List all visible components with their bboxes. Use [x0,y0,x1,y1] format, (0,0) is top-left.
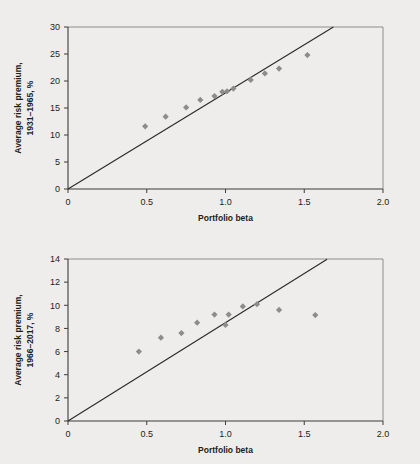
y-axis-tick-label: 20 [50,76,60,86]
security-market-line [68,27,333,189]
plot-axes [68,27,383,189]
data-point-marker [136,348,142,354]
x-axis-tick-label: 1.5 [298,197,311,207]
data-point-marker [158,335,164,341]
y-axis-title: Average risk premium,1966–2017, % [13,294,35,385]
y-axis-tick-label: 10 [50,301,60,311]
x-axis-tick-label: 2.0 [377,429,390,439]
y-axis-tick-label: 5 [55,157,60,167]
plot-axes [68,259,383,421]
y-axis-tick-label: 4 [55,370,60,380]
x-axis-tick-label: 1.0 [219,197,232,207]
data-point-marker [240,303,246,309]
scatter-chart-1966-2017: 0246810121400.51.01.52.0Portfolio betaAv… [0,232,420,464]
y-axis-tick-label: 12 [50,277,60,287]
x-axis-tick-label: 0 [65,429,70,439]
data-point-marker [276,307,282,313]
y-axis-tick-label: 10 [50,130,60,140]
x-axis-tick-label: 0.5 [140,197,153,207]
figure-page: 05101520253000.51.01.52.0Portfolio betaA… [0,0,420,464]
y-axis-tick-label: 30 [50,22,60,32]
data-point-marker [276,65,282,71]
data-point-marker [211,311,217,317]
y-axis-title: Average risk premium,1931–1965, % [13,62,35,153]
data-point-marker [248,77,254,83]
y-axis-tick-label: 0 [55,416,60,426]
y-axis-tick-label: 14 [50,254,60,264]
data-point-marker [163,114,169,120]
x-axis-tick-label: 0.5 [140,429,153,439]
data-point-marker [142,123,148,129]
data-point-marker [262,70,268,76]
data-point-marker [178,330,184,336]
plot-frame [68,259,383,421]
plot-frame [68,27,383,189]
x-axis-tick-label: 0 [65,197,70,207]
y-axis-tick-label: 6 [55,347,60,357]
x-axis-title: Portfolio beta [198,213,253,223]
data-point-marker [183,104,189,110]
scatter-chart-1931-1965: 05101520253000.51.01.52.0Portfolio betaA… [0,0,420,232]
y-axis-tick-label: 2 [55,393,60,403]
data-point-marker [197,97,203,103]
y-axis-title-line2: 1966–2017, % [25,312,35,367]
y-axis-tick-label: 0 [55,184,60,194]
data-point-marker [304,52,310,58]
chart-panel-1966-2017: 0246810121400.51.01.52.0Portfolio betaAv… [0,232,420,464]
y-axis-title-line1: Average risk premium, [13,62,23,153]
x-axis-tick-label: 1.5 [298,429,311,439]
data-point-marker [222,322,228,328]
chart-panel-1931-1965: 05101520253000.51.01.52.0Portfolio betaA… [0,0,420,232]
x-axis-tick-label: 2.0 [377,197,390,207]
security-market-line [68,259,327,421]
x-axis-tick-label: 1.0 [219,429,232,439]
y-axis-tick-label: 8 [55,324,60,334]
data-point-marker [226,311,232,317]
y-axis-title-line2: 1931–1965, % [25,80,35,135]
y-axis-tick-label: 25 [50,49,60,59]
data-point-marker [312,312,318,318]
y-axis-tick-label: 15 [50,103,60,113]
data-point-marker [194,320,200,326]
x-axis-title: Portfolio beta [198,445,253,455]
y-axis-title-line1: Average risk premium, [13,294,23,385]
